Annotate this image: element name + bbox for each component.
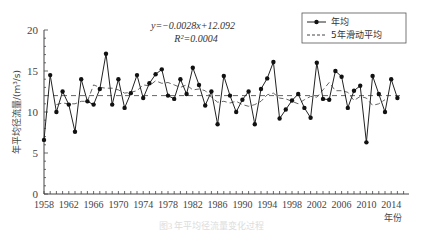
- data-point: [48, 73, 52, 77]
- data-point: [346, 106, 350, 110]
- data-point: [104, 52, 108, 56]
- data-point: [389, 77, 393, 81]
- x-tick-label: 2010: [356, 199, 376, 210]
- data-point: [352, 88, 356, 92]
- data-point: [395, 96, 399, 100]
- data-point: [147, 81, 151, 85]
- data-point: [370, 74, 374, 78]
- y-tick-label: 5: [33, 147, 39, 159]
- data-point: [67, 102, 71, 106]
- data-point: [178, 77, 182, 81]
- data-point: [129, 91, 133, 95]
- x-tick-label: 1962: [59, 199, 79, 210]
- data-point: [116, 77, 120, 81]
- data-point: [79, 77, 83, 81]
- data-point: [253, 122, 257, 126]
- data-point: [240, 98, 244, 102]
- runoff-chart: 0510152019581962196619701974197819821986…: [0, 0, 423, 235]
- data-point: [135, 73, 139, 77]
- y-tick-label: 20: [27, 24, 39, 36]
- data-point: [383, 110, 387, 114]
- data-point: [246, 89, 250, 93]
- data-point: [296, 92, 300, 96]
- data-point: [98, 87, 102, 91]
- x-tick-label: 1966: [84, 199, 104, 210]
- regression-equation: y=−0.0028x+12.092: [150, 20, 235, 31]
- data-point: [54, 110, 58, 114]
- figure-caption: 图3 年平均径流量变化过程: [0, 219, 423, 232]
- data-point: [308, 116, 312, 120]
- x-tick-label: 1982: [183, 199, 203, 210]
- data-point: [271, 60, 275, 64]
- data-point: [42, 138, 46, 142]
- x-tick-label: 1974: [133, 199, 153, 210]
- data-point: [85, 99, 89, 103]
- x-tick-label: 1998: [282, 199, 302, 210]
- x-tick-label: 1994: [257, 199, 277, 210]
- data-point: [110, 102, 114, 106]
- data-point: [358, 84, 362, 88]
- annual-line: [44, 54, 397, 143]
- data-point: [191, 66, 195, 70]
- data-point: [234, 110, 238, 114]
- data-point: [302, 106, 306, 110]
- data-point: [73, 129, 77, 133]
- data-point: [228, 93, 232, 97]
- data-point: [277, 116, 281, 120]
- data-point: [209, 89, 213, 93]
- data-point: [184, 92, 188, 96]
- y-tick-label: 15: [27, 65, 39, 77]
- legend-annual-dot-icon: [314, 20, 318, 24]
- legend-moving-average-label: 5年滑动平均: [331, 29, 382, 40]
- data-point: [315, 61, 319, 65]
- legend-annual-label: 年均: [331, 16, 349, 27]
- x-tick-label: 2002: [307, 199, 327, 210]
- data-point: [122, 106, 126, 110]
- data-point: [339, 75, 343, 79]
- data-point: [333, 69, 337, 73]
- data-point: [172, 97, 176, 101]
- data-point: [284, 107, 288, 111]
- data-point: [160, 67, 164, 71]
- data-point: [290, 98, 294, 102]
- x-tick-label: 1970: [108, 199, 128, 210]
- data-point: [60, 89, 64, 93]
- data-point: [321, 97, 325, 101]
- data-point: [327, 98, 331, 102]
- data-point: [259, 87, 263, 91]
- data-point: [141, 96, 145, 100]
- data-point: [265, 76, 269, 80]
- x-tick-label: 2006: [332, 199, 352, 210]
- r-squared: R²=0.0004: [173, 33, 217, 44]
- data-point: [377, 92, 381, 96]
- x-tick-label: 1958: [34, 199, 54, 210]
- data-point: [222, 74, 226, 78]
- data-point: [203, 103, 207, 107]
- y-tick-label: 10: [27, 106, 39, 118]
- x-tick-label: 2014: [381, 199, 401, 210]
- y-axis-label: 年平均径流量/(m³/s): [11, 70, 22, 154]
- data-point: [364, 140, 368, 144]
- data-point: [153, 72, 157, 76]
- x-tick-label: 1986: [208, 199, 228, 210]
- data-point: [215, 122, 219, 126]
- data-point: [197, 83, 201, 87]
- x-tick-label: 1990: [232, 199, 252, 210]
- data-point: [91, 102, 95, 106]
- x-tick-label: 1978: [158, 199, 178, 210]
- data-point: [166, 93, 170, 97]
